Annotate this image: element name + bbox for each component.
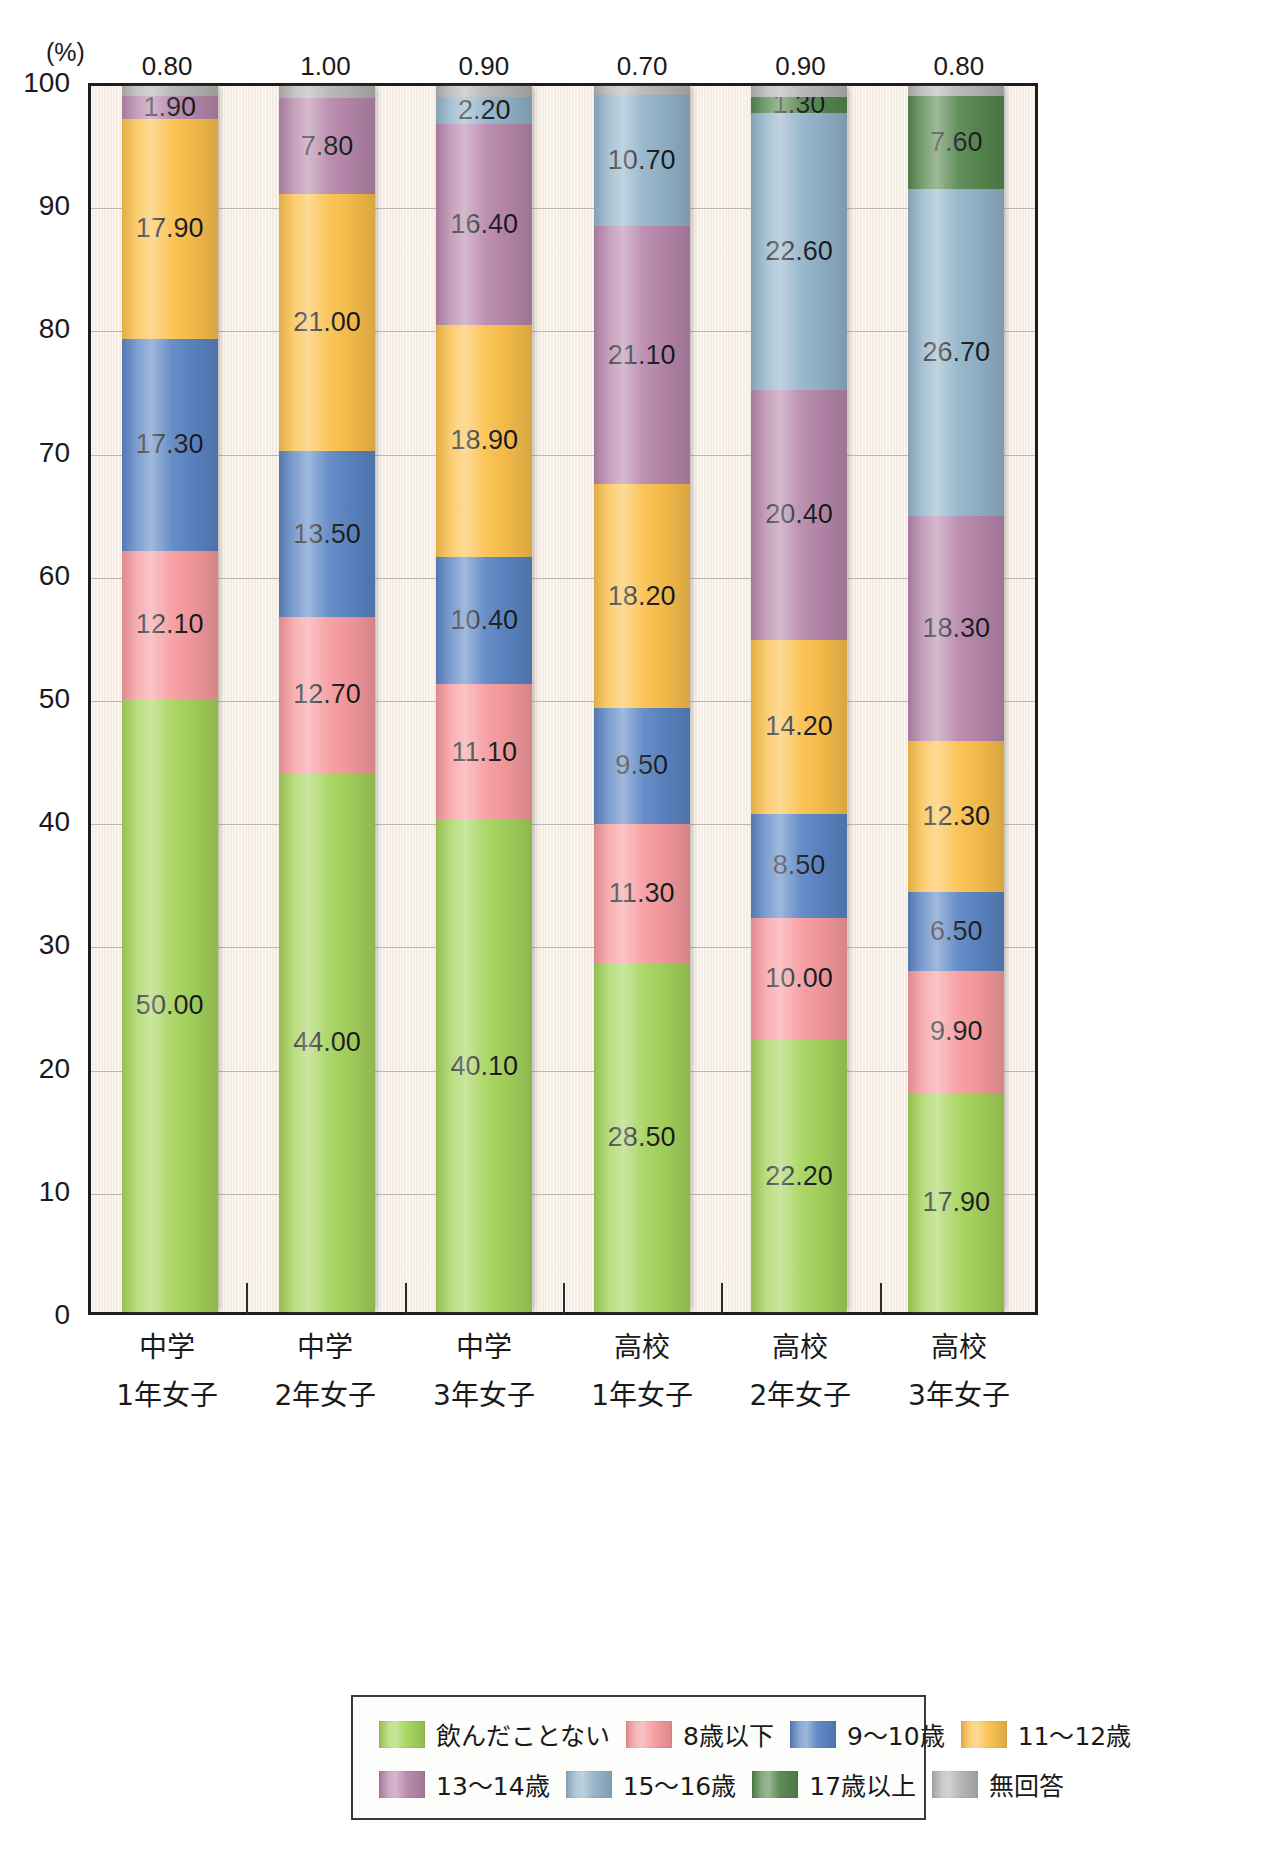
legend-item-age_13_14[interactable]: 13〜14歳 xyxy=(379,1766,550,1802)
stacked-bar-5[interactable]: 22.2010.008.5014.2020.4022.601.30 xyxy=(751,86,847,1312)
y-tick-label-90: 90 xyxy=(39,190,70,222)
segment-value-label: 28.50 xyxy=(608,1122,676,1153)
legend-label: 8歳以下 xyxy=(683,1716,774,1752)
bar-slot-2: 44.0012.7013.5021.007.80 xyxy=(248,86,405,1312)
segment-value-label: 17.90 xyxy=(923,1187,991,1218)
segment-value-label: 20.40 xyxy=(765,499,833,530)
bar-segment-3-age_13_14[interactable]: 16.40 xyxy=(436,124,532,325)
bar-segment-2-age_11_12[interactable]: 21.00 xyxy=(279,194,375,451)
bar-segment-5-age_13_14[interactable]: 20.40 xyxy=(751,390,847,640)
bar-slot-6: 17.909.906.5012.3018.3026.707.60 xyxy=(878,86,1035,1312)
segment-value-label: 8.50 xyxy=(773,850,826,881)
bar-segment-3-age_8_under[interactable]: 11.10 xyxy=(436,684,532,820)
legend-item-none[interactable]: 飲んだことない xyxy=(379,1716,610,1752)
segment-value-label: 18.20 xyxy=(608,581,676,612)
bar-segment-4-age_11_12[interactable]: 18.20 xyxy=(594,484,690,707)
bar-segment-4-age_13_14[interactable]: 21.10 xyxy=(594,226,690,485)
bar-segment-6-age_13_14[interactable]: 18.30 xyxy=(908,516,1004,740)
x-minor-tick-2 xyxy=(405,1283,407,1315)
bar-segment-2-no_answer[interactable] xyxy=(279,86,375,98)
legend-item-no_answer[interactable]: 無回答 xyxy=(932,1766,1064,1802)
top-label-6: 0.80 xyxy=(880,50,1038,82)
bar-segment-6-age_9_10[interactable]: 6.50 xyxy=(908,892,1004,972)
bar-segment-5-age_9_10[interactable]: 8.50 xyxy=(751,814,847,918)
segment-value-label: 10.40 xyxy=(451,605,519,636)
bar-segment-6-age_17_over[interactable]: 7.60 xyxy=(908,96,1004,189)
legend-item-age_17_over[interactable]: 17歳以上 xyxy=(752,1766,916,1802)
stacked-bar-chart-figure: (%) 0.801.000.900.700.900.80 01020304050… xyxy=(0,0,1274,1865)
bar-segment-6-no_answer[interactable] xyxy=(908,86,1004,96)
bar-segment-1-age_11_12[interactable]: 17.90 xyxy=(122,119,218,338)
category-label-line-2: 3年女子 xyxy=(880,1372,1038,1420)
legend-swatch-age_11_12 xyxy=(961,1721,1007,1748)
x-minor-tick-5 xyxy=(880,1283,882,1315)
segment-value-label: 9.90 xyxy=(930,1016,983,1047)
bar-segment-5-none[interactable]: 22.20 xyxy=(751,1040,847,1312)
legend-swatch-none xyxy=(379,1721,425,1748)
y-tick-label-80: 80 xyxy=(39,313,70,345)
y-tick-label-70: 70 xyxy=(39,437,70,469)
stacked-bar-4[interactable]: 28.5011.309.5018.2021.1010.70 xyxy=(594,86,690,1312)
bar-segment-3-none[interactable]: 40.10 xyxy=(436,820,532,1312)
bar-segment-4-age_8_under[interactable]: 11.30 xyxy=(594,824,690,963)
bar-segment-5-age_15_16[interactable]: 22.60 xyxy=(751,113,847,390)
segment-value-label: 10.70 xyxy=(608,145,676,176)
legend-item-age_15_16[interactable]: 15〜16歳 xyxy=(566,1766,737,1802)
bar-segment-2-age_13_14[interactable]: 7.80 xyxy=(279,98,375,194)
bar-segment-3-age_15_16[interactable]: 2.20 xyxy=(436,97,532,124)
bar-segment-1-age_8_under[interactable]: 12.10 xyxy=(122,551,218,699)
stacked-bar-3[interactable]: 40.1011.1010.4018.9016.402.20 xyxy=(436,86,532,1312)
x-minor-tick-3 xyxy=(563,1283,565,1315)
bar-segment-3-age_9_10[interactable]: 10.40 xyxy=(436,557,532,685)
category-label-line-2: 1年女子 xyxy=(563,1372,721,1420)
segment-value-label: 50.00 xyxy=(136,990,204,1021)
segment-value-label: 7.80 xyxy=(301,131,354,162)
legend-item-age_9_10[interactable]: 9〜10歳 xyxy=(790,1716,945,1752)
bar-segment-6-age_15_16[interactable]: 26.70 xyxy=(908,189,1004,516)
bar-slot-1: 50.0012.1017.3017.901.90 xyxy=(91,86,248,1312)
y-tick-label-30: 30 xyxy=(39,929,70,961)
legend-label: 13〜14歳 xyxy=(436,1766,550,1802)
stacked-bar-1[interactable]: 50.0012.1017.3017.901.90 xyxy=(122,86,218,1312)
bar-segment-4-none[interactable]: 28.50 xyxy=(594,963,690,1312)
top-label-1: 0.80 xyxy=(88,50,246,82)
bar-segment-2-none[interactable]: 44.00 xyxy=(279,773,375,1312)
bar-segment-4-age_9_10[interactable]: 9.50 xyxy=(594,708,690,824)
category-label-line-1: 中学 xyxy=(405,1324,563,1372)
segment-value-label: 12.10 xyxy=(136,609,204,640)
stacked-bar-6[interactable]: 17.909.906.5012.3018.3026.707.60 xyxy=(908,86,1004,1312)
bar-segment-5-no_answer[interactable] xyxy=(751,86,847,97)
bar-segment-6-age_8_under[interactable]: 9.90 xyxy=(908,971,1004,1092)
bar-segment-1-age_13_14[interactable]: 1.90 xyxy=(122,96,218,119)
category-label-line-1: 高校 xyxy=(880,1324,1038,1372)
bar-segment-3-no_answer[interactable] xyxy=(436,86,532,97)
bar-segment-1-none[interactable]: 50.00 xyxy=(122,699,218,1312)
bar-segment-6-none[interactable]: 17.90 xyxy=(908,1093,1004,1312)
bar-segment-2-age_8_under[interactable]: 12.70 xyxy=(279,617,375,773)
bar-segment-5-age_11_12[interactable]: 14.20 xyxy=(751,640,847,814)
bar-segment-5-age_8_under[interactable]: 10.00 xyxy=(751,918,847,1040)
segment-value-label: 7.60 xyxy=(930,127,983,158)
bar-segment-6-age_11_12[interactable]: 12.30 xyxy=(908,741,1004,892)
bar-segment-3-age_11_12[interactable]: 18.90 xyxy=(436,325,532,557)
bar-segment-1-age_9_10[interactable]: 17.30 xyxy=(122,339,218,551)
y-tick-label-50: 50 xyxy=(39,683,70,715)
category-label-4: 高校1年女子 xyxy=(563,1324,721,1444)
x-minor-tick-4 xyxy=(721,1283,723,1315)
bar-segment-2-age_9_10[interactable]: 13.50 xyxy=(279,451,375,617)
segment-value-label: 21.10 xyxy=(608,340,676,371)
legend-label: 9〜10歳 xyxy=(847,1716,945,1752)
segment-value-label: 18.90 xyxy=(451,425,519,456)
category-label-line-1: 中学 xyxy=(246,1324,404,1372)
segment-value-label: 10.00 xyxy=(765,963,833,994)
legend-swatch-age_13_14 xyxy=(379,1771,425,1798)
legend-item-age_11_12[interactable]: 11〜12歳 xyxy=(961,1716,1132,1752)
bar-segment-1-no_answer[interactable] xyxy=(122,86,218,96)
stacked-bar-2[interactable]: 44.0012.7013.5021.007.80 xyxy=(279,86,375,1312)
bar-slot-5: 22.2010.008.5014.2020.4022.601.30 xyxy=(720,86,877,1312)
chart-legend: 飲んだことない8歳以下9〜10歳11〜12歳13〜14歳15〜16歳17歳以上無… xyxy=(351,1695,926,1820)
bar-segment-4-age_15_16[interactable]: 10.70 xyxy=(594,95,690,226)
bar-segment-4-no_answer[interactable] xyxy=(594,86,690,95)
bar-segment-5-age_17_over[interactable]: 1.30 xyxy=(751,97,847,113)
legend-item-age_8_under[interactable]: 8歳以下 xyxy=(626,1716,774,1752)
